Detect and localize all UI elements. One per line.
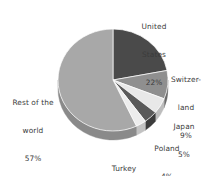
slice-value-rest-of-the-world: 57% (2, 154, 64, 163)
slice-label-line1: Turkey (100, 164, 148, 173)
slice-value-poland: 4% (142, 172, 192, 176)
slice-label-line1: Rest of the (2, 98, 64, 107)
slice-label-line2: world (2, 126, 64, 135)
slice-label-turkey: Turkey 3% (100, 146, 148, 176)
slice-label-poland: Poland 4% (142, 126, 192, 176)
slice-label-line1: United (126, 22, 182, 31)
slice-label-line1: Switzer- (160, 75, 212, 84)
slice-label-line1: Poland (142, 144, 192, 153)
pie-chart-figure: United States 22% Switzer- land 9% Japan… (0, 0, 213, 176)
slice-label-rest-of-the-world: Rest of the world 57% (2, 80, 64, 176)
